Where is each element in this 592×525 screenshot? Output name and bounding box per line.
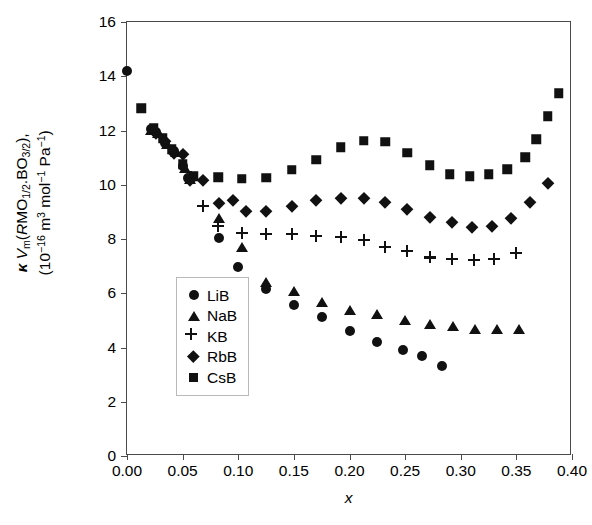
- x-tick-mark: [461, 454, 462, 460]
- square-marker: [261, 173, 271, 183]
- y-tick-label: 2: [107, 393, 116, 411]
- square-marker: [213, 172, 223, 182]
- circle-marker: [261, 284, 271, 294]
- plus-marker: [188, 330, 200, 342]
- circle-marker: [289, 300, 299, 310]
- diamond-marker: [358, 192, 370, 204]
- circle-marker: [214, 233, 224, 243]
- diamond-marker: [379, 195, 391, 207]
- x-tick-label: 0.40: [557, 462, 587, 480]
- legend-label: RbB: [207, 349, 237, 365]
- triangle-marker: [371, 309, 383, 319]
- circle-marker: [160, 138, 170, 148]
- square-marker: [532, 134, 542, 144]
- triangle-marker: [316, 297, 328, 307]
- legend-symbol-circle-icon: [185, 287, 202, 304]
- square-marker: [465, 171, 475, 181]
- legend-item-lib: LiB: [185, 285, 237, 306]
- legend: LiBNaBKBRbBCsB: [176, 277, 249, 396]
- circle-marker: [417, 351, 427, 361]
- square-marker: [380, 137, 390, 147]
- triangle-marker: [213, 213, 225, 223]
- x-tick-mark: [183, 454, 184, 460]
- diamond-marker: [260, 204, 272, 216]
- circle-marker: [372, 337, 382, 347]
- circle-marker: [437, 361, 447, 371]
- diamond-marker: [424, 211, 436, 223]
- diamond-marker: [286, 200, 298, 212]
- diamond-marker: [213, 197, 225, 209]
- diamond-marker: [401, 203, 413, 215]
- circle-marker: [146, 124, 156, 134]
- diamond-marker: [159, 135, 171, 147]
- legend-label: CsB: [207, 370, 236, 386]
- circle-marker: [189, 290, 199, 300]
- circle-marker: [398, 345, 408, 355]
- legend-item-csb: CsB: [185, 367, 237, 388]
- plus-marker: [488, 253, 500, 265]
- plus-marker: [401, 245, 413, 257]
- plus-marker: [424, 251, 436, 263]
- circle-marker: [169, 146, 179, 156]
- square-marker: [189, 171, 199, 181]
- plus-marker: [446, 253, 458, 265]
- diamond-marker: [187, 351, 199, 363]
- diamond-marker: [486, 220, 498, 232]
- square-marker: [167, 145, 177, 155]
- triangle-marker: [236, 242, 248, 252]
- square-marker: [158, 133, 168, 143]
- square-marker: [554, 88, 564, 98]
- circle-marker: [183, 173, 193, 183]
- x-tick-label: 0.25: [390, 462, 420, 480]
- square-marker: [237, 174, 247, 184]
- y-tick-label: 6: [107, 284, 116, 302]
- y-tick-mark: [121, 76, 127, 77]
- triangle-marker: [152, 128, 164, 138]
- plus-marker: [236, 227, 248, 239]
- x-tick-label: 0.10: [223, 462, 253, 480]
- legend-symbol-square-icon: [185, 369, 202, 386]
- x-tick-mark: [294, 454, 295, 460]
- diamond-marker: [227, 194, 239, 206]
- square-marker: [445, 170, 455, 180]
- triangle-marker: [179, 163, 191, 173]
- y-tick-mark: [121, 131, 127, 132]
- circle-marker: [345, 326, 355, 336]
- legend-label: LiB: [207, 288, 229, 304]
- x-tick-mark: [238, 454, 239, 460]
- square-marker: [287, 165, 297, 175]
- triangle-marker: [469, 324, 481, 334]
- triangle-marker: [513, 324, 525, 334]
- diamond-marker: [197, 174, 209, 186]
- x-tick-label: 0.00: [112, 462, 142, 480]
- diamond-marker: [446, 216, 458, 228]
- legend-item-kb: KB: [185, 326, 237, 347]
- y-tick-label: 4: [107, 339, 116, 357]
- x-tick-label: 0.05: [168, 462, 198, 480]
- triangle-marker: [260, 277, 272, 287]
- triangle-marker: [145, 125, 157, 135]
- x-tick-label: 0.35: [501, 462, 531, 480]
- square-marker: [149, 123, 159, 133]
- square-marker: [403, 148, 413, 158]
- diamond-marker: [466, 221, 478, 233]
- y-tick-mark: [121, 293, 127, 294]
- scatter-chart-figure: κ Vm(RMO1/2.BO3/2), (10−16 m3 mol−1 Pa−1…: [0, 0, 592, 525]
- square-marker: [189, 373, 199, 383]
- circle-marker: [122, 66, 132, 76]
- diamond-marker: [310, 194, 322, 206]
- plus-marker: [184, 171, 196, 183]
- diamond-marker: [150, 127, 162, 139]
- y-axis-label: κ Vm(RMO1/2.BO3/2), (10−16 m3 mol−1 Pa−1…: [11, 3, 57, 403]
- diamond-marker: [505, 212, 517, 224]
- triangle-marker: [447, 321, 459, 331]
- plus-marker: [379, 241, 391, 253]
- x-axis-label: x: [126, 489, 571, 507]
- x-tick-mark: [350, 454, 351, 460]
- plus-marker: [286, 228, 298, 240]
- square-marker: [178, 160, 188, 170]
- legend-symbol-plus-icon: [185, 328, 202, 345]
- circle-marker: [233, 262, 243, 272]
- plus-marker: [310, 230, 322, 242]
- y-tick-mark: [121, 22, 127, 23]
